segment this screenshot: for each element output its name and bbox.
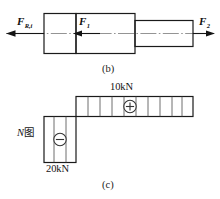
panel-caption-c: (c) — [102, 180, 114, 191]
force-label-FRi-base: F — [17, 15, 24, 27]
force-label-FRi: FR,i — [17, 16, 32, 27]
figure-root: FR,i F1 F2 (b) 10kN 20kN N图 (c) — [0, 0, 220, 199]
force-label-F2: F2 — [199, 16, 210, 27]
force-label-F2-subscript: 2 — [207, 22, 210, 29]
force-arrow-F2 — [193, 30, 215, 36]
minus-circle-icon — [54, 133, 66, 145]
n-diagram-label-symbol: N — [17, 127, 24, 138]
panel-b-geometry — [6, 14, 215, 54]
force-label-F1-subscript: 1 — [87, 22, 90, 29]
force-arrow-F1 — [73, 30, 100, 36]
value-label-10kn: 10kN — [110, 82, 133, 93]
figure-svg — [0, 0, 220, 199]
force-arrow-FRi — [6, 30, 44, 37]
panel-caption-b: (b) — [102, 64, 114, 75]
n-diagram-label: N图 — [17, 128, 34, 139]
force-label-F1: F1 — [79, 16, 90, 27]
force-label-FRi-subscript: R,i — [25, 22, 33, 29]
value-label-20kn: 20kN — [46, 164, 69, 175]
panel-c-geometry — [44, 97, 193, 163]
n-diagram-label-suffix: 图 — [24, 127, 34, 138]
force-label-F2-base: F — [199, 15, 206, 27]
plus-circle-icon — [124, 100, 136, 112]
force-label-F1-base: F — [79, 15, 86, 27]
